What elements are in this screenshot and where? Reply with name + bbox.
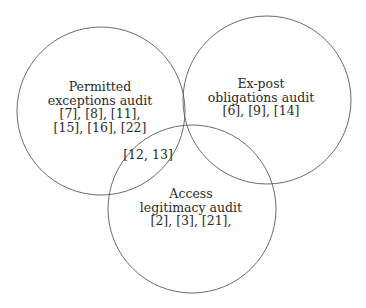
label-access-legitimacy: Access legitimacy audit [2], [3], [21], bbox=[140, 187, 242, 228]
intersection-refs: [12, 13] bbox=[123, 148, 173, 162]
set-title-line: exceptions audit bbox=[48, 94, 152, 108]
label-permitted-exceptions: Permitted exceptions audit [7], [8], [11… bbox=[48, 80, 152, 134]
venn-diagram bbox=[0, 0, 366, 308]
set-title-line: obligations audit bbox=[208, 91, 315, 105]
set-refs-line: [15], [16], [22] bbox=[48, 121, 152, 135]
set-title-line: Permitted bbox=[48, 80, 152, 94]
set-title-line: legitimacy audit bbox=[140, 201, 242, 215]
set-title-line: Ex-post bbox=[208, 77, 315, 91]
set-refs-line: [2], [3], [21], bbox=[140, 214, 242, 228]
set-refs-line: [7], [8], [11], bbox=[48, 107, 152, 121]
label-intersection-permitted-access: [12, 13] bbox=[123, 148, 173, 162]
label-ex-post-obligations: Ex-post obligations audit [6], [9], [14] bbox=[208, 77, 315, 118]
set-title-line: Access bbox=[140, 187, 242, 201]
set-refs-line: [6], [9], [14] bbox=[208, 104, 315, 118]
